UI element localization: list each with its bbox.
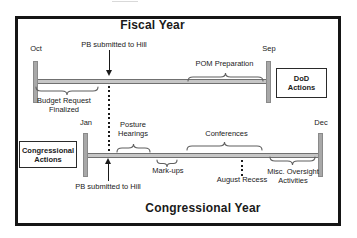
pb-bottom-arrow xyxy=(108,164,109,181)
budget-request-brace xyxy=(36,87,98,95)
pom-preparation-label: POM Preparation xyxy=(182,60,267,69)
pb-dotted-connector xyxy=(108,86,110,152)
misc-oversight-label: Misc. Oversight Activities xyxy=(263,168,323,185)
fiscal-end-month-label: Sep xyxy=(249,45,289,54)
august-recess-dotted-line xyxy=(241,160,243,176)
pom-preparation-brace xyxy=(188,73,263,81)
congressional-start-month-label: Jan xyxy=(66,119,106,128)
congressional-year-title: Congressional Year xyxy=(84,202,322,215)
congressional-end-month-label: Dec xyxy=(301,119,341,128)
dod-actions-box: DoD Actions xyxy=(276,68,327,98)
congressional-start-tick xyxy=(83,133,88,177)
budget-request-label: Budget Request Finalized xyxy=(23,97,105,114)
pb-top-arrowhead-icon xyxy=(106,70,112,76)
diagram-frame xyxy=(15,16,341,226)
fiscal-start-month-label: Oct xyxy=(16,45,56,54)
screenshot-edge-artifact xyxy=(112,1,138,2)
fiscal-year-title: Fiscal Year xyxy=(36,19,269,32)
posture-hearings-label: Posture Hearings xyxy=(103,121,163,138)
posture-hearings-brace xyxy=(117,144,150,152)
markups-label: Mark-ups xyxy=(138,167,198,176)
pb-submitted-bottom-label: PB submitted to Hill xyxy=(68,183,148,192)
pb-submitted-top-label: PB submitted to Hill xyxy=(74,41,154,50)
misc-oversight-brace xyxy=(270,157,315,165)
conferences-brace xyxy=(187,142,262,150)
conferences-label: Conferences xyxy=(189,130,264,139)
congressional-actions-box: Congressional Actions xyxy=(19,141,77,168)
pb-top-arrow xyxy=(109,50,110,70)
